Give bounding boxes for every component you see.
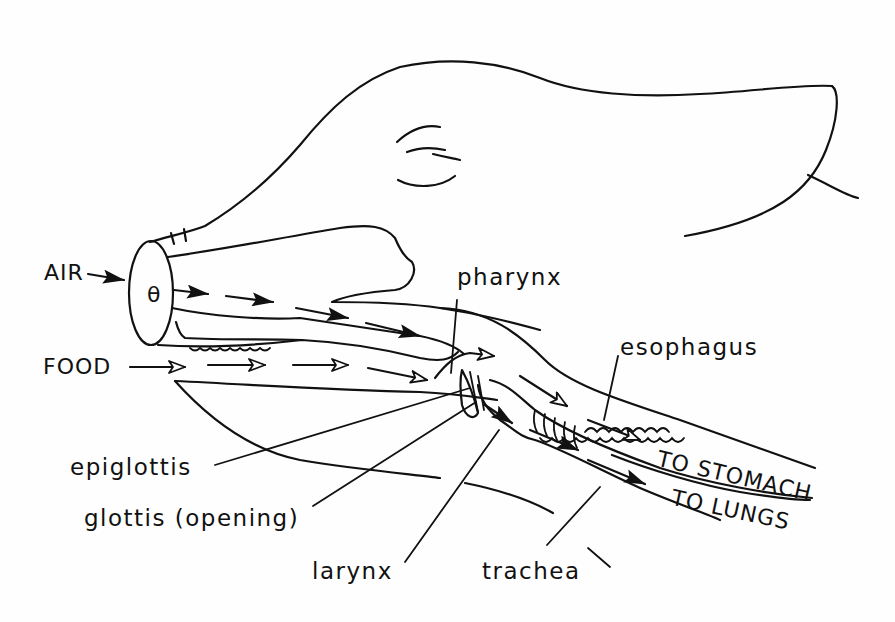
head-outline <box>150 61 858 244</box>
label-pharynx: pharynx <box>457 266 562 289</box>
label-esophagus: esophagus <box>620 336 758 359</box>
label-glottis: glottis (opening) <box>84 507 299 530</box>
label-larynx: larynx <box>312 560 393 583</box>
label-air: AIR <box>44 262 84 284</box>
label-trachea: trachea <box>482 560 581 583</box>
eye-icon <box>397 126 460 186</box>
label-food: FOOD <box>43 356 111 378</box>
diagram-canvas: θ <box>0 0 895 622</box>
label-epiglottis: epiglottis <box>70 456 192 479</box>
nostril-glyph: θ <box>147 282 160 307</box>
